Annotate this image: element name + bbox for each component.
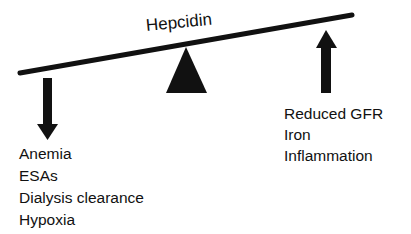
up-arrow-icon [316,30,337,93]
factor-item: Dialysis clearance [19,187,144,209]
down-arrow-icon [37,78,58,140]
factor-item: Hypoxia [19,209,144,231]
increasing-factors-list: Reduced GFR Iron Inflammation [284,103,383,166]
factor-item: Inflammation [284,145,383,166]
decreasing-factors-list: Anemia ESAs Dialysis clearance Hypoxia [19,143,144,231]
fulcrum-triangle [166,47,207,93]
factor-item: Anemia [19,143,144,165]
factor-item: ESAs [19,165,144,187]
factor-item: Iron [284,124,383,145]
factor-item: Reduced GFR [284,103,383,124]
